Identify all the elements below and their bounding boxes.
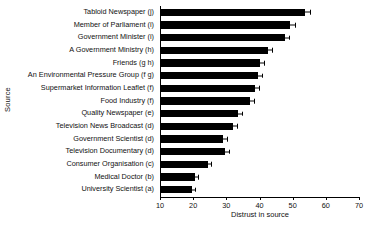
category-label: Member of Parliament (i) (0, 19, 157, 32)
error-bar (229, 126, 236, 127)
x-axis-tick-label: 50 (281, 201, 305, 210)
error-bar-cap-high (254, 99, 255, 104)
bar (161, 161, 208, 168)
error-bar-cap-high (310, 10, 311, 15)
error-bar-cap-low (246, 99, 247, 104)
bar-row (161, 19, 360, 32)
bar (161, 110, 238, 117)
error-bar-cap-low (229, 124, 230, 129)
bar (161, 186, 192, 193)
bar (161, 34, 285, 41)
x-axis-tick-label: 30 (214, 201, 238, 210)
category-label: Government Scientist (d) (0, 133, 157, 146)
x-axis-tick-label: 60 (314, 201, 338, 210)
x-axis-title: Distrust in source (160, 210, 360, 219)
error-bar (219, 139, 226, 140)
error-bar (285, 24, 294, 25)
category-label: An Environmental Pressure Group (f g) (0, 69, 157, 82)
error-bar-cap-low (189, 187, 190, 192)
bar-row (161, 183, 360, 196)
x-axis-tick (293, 197, 294, 200)
error-bar-cap-high (211, 162, 212, 167)
x-axis-tick-label: 40 (248, 201, 272, 210)
bar-row (161, 6, 360, 19)
error-bar-cap-low (219, 137, 220, 142)
category-label: Television Documentary (d) (0, 145, 157, 158)
bar-row (161, 145, 360, 158)
error-bar (300, 12, 310, 13)
error-bar-cap-high (227, 137, 228, 142)
category-label: Tabloid Newspaper (j) (0, 6, 157, 19)
category-axis-labels: Tabloid Newspaper (j)Member of Parliamen… (0, 6, 157, 196)
error-bar-cap-low (280, 35, 281, 40)
x-axis-tick-label: 10 (148, 201, 172, 210)
category-label: Consumer Organisation (c) (0, 158, 157, 171)
bar-row (161, 57, 360, 70)
error-bar (256, 62, 264, 63)
bar-row (161, 133, 360, 146)
bar-row (161, 95, 360, 108)
category-label: Quality Newspaper (e) (0, 107, 157, 120)
x-axis-tick (260, 197, 261, 200)
bar (161, 148, 225, 155)
x-axis-tick (193, 197, 194, 200)
x-axis-tick (226, 197, 227, 200)
error-bar-cap-high (259, 86, 260, 91)
bar-row (161, 158, 360, 171)
error-bar-cap-high (195, 187, 196, 192)
x-axis-tick (359, 197, 360, 200)
error-bar (263, 50, 272, 51)
error-bar-cap-high (289, 35, 290, 40)
bar-row (161, 107, 360, 120)
x-axis-tick-label: 20 (181, 201, 205, 210)
category-label: Food Industry (f) (0, 95, 157, 108)
bar (161, 9, 305, 16)
bar (161, 135, 223, 142)
error-bar-cap-high (237, 124, 238, 129)
error-bar-cap-low (256, 61, 257, 66)
error-bar (254, 75, 262, 76)
error-bar-cap-low (192, 175, 193, 180)
bar-row (161, 82, 360, 95)
error-bar (234, 113, 241, 114)
error-bar-cap-high (295, 23, 296, 28)
bar-row (161, 31, 360, 44)
bar (161, 85, 255, 92)
error-bar-cap-low (263, 48, 264, 53)
error-bar-cap-high (264, 61, 265, 66)
error-bar (246, 101, 254, 102)
bar (161, 173, 195, 180)
error-bar-cap-high (262, 73, 263, 78)
error-bar (221, 151, 228, 152)
x-axis-tick-label: 70 (347, 201, 371, 210)
error-bar-cap-high (198, 175, 199, 180)
error-bar-cap-low (300, 10, 301, 15)
bar (161, 59, 260, 66)
category-label: Medical Doctor (b) (0, 171, 157, 184)
category-label: A Government Ministry (h) (0, 44, 157, 57)
category-label: Government Minister (i) (0, 31, 157, 44)
bar-row (161, 120, 360, 133)
category-label: Supermarket Information Leaflet (f) (0, 82, 157, 95)
category-label: Friends (g h) (0, 57, 157, 70)
error-bar-cap-low (234, 111, 235, 116)
error-bar-cap-low (254, 73, 255, 78)
bar-row (161, 171, 360, 184)
bar (161, 72, 258, 79)
error-bar-cap-high (242, 111, 243, 116)
x-axis-tick (326, 197, 327, 200)
bars-container (161, 6, 360, 196)
x-axis-tick (160, 197, 161, 200)
error-bar-cap-low (251, 86, 252, 91)
error-bar-cap-high (272, 48, 273, 53)
bar (161, 123, 233, 130)
bar-row (161, 44, 360, 57)
bar (161, 97, 250, 104)
bar (161, 21, 290, 28)
error-bar-cap-low (205, 162, 206, 167)
bar (161, 47, 268, 54)
error-bar-cap-high (229, 149, 230, 154)
error-bar-cap-low (221, 149, 222, 154)
bar-chart: Source Tabloid Newspaper (j)Member of Pa… (0, 0, 381, 227)
category-label: University Scientist (a) (0, 183, 157, 196)
